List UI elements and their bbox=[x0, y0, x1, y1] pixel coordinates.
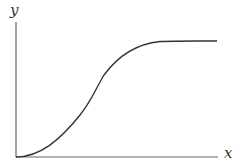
x-axis-label: x bbox=[224, 146, 232, 161]
sigmoid-curve bbox=[16, 41, 217, 157]
sigmoid-chart bbox=[0, 0, 238, 168]
y-axis-label: y bbox=[10, 3, 18, 18]
